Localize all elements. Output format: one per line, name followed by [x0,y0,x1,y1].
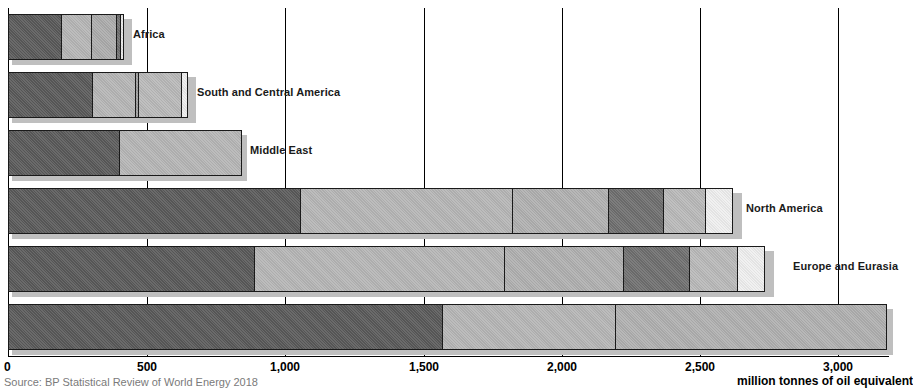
stacked-bar [8,72,188,118]
bar-row: Europe and Eurasia [0,246,889,292]
bar-segment-hydro [689,246,738,292]
bar-category-label: Middle East [250,144,312,156]
bar-segment-nuclear [623,246,690,292]
bar-segment-coal [504,246,624,292]
bar-segment-renewables [737,246,765,292]
x-tick-label: 0 [4,360,11,374]
bar-segment-nuclear [608,188,664,234]
plot-area: AfricaSouth and Central AmericaMiddle Ea… [0,0,889,356]
stacked-bar [8,14,124,60]
bar-row [0,304,889,350]
x-axis-line [8,356,889,357]
bar-row: Africa [0,14,889,60]
bar-segment-natural-gas [300,188,513,234]
bar-segment-natural-gas [119,130,242,176]
bar-segment-coal [615,304,887,350]
bar-segment-natural-gas [92,72,136,118]
bar-segment-hydro [663,188,706,234]
bar-segment-oil [8,188,301,234]
source-note: Source: BP Statistical Review of World E… [4,376,258,388]
x-axis-title: million tonnes of oil equivalent [737,374,913,388]
bar-segment-natural-gas [442,304,616,350]
bar-category-label: North America [746,202,823,214]
bar-category-label: Europe and Eurasia [793,260,898,272]
stacked-bar [8,188,733,234]
bar-segment-oil [8,130,120,176]
stacked-bar [8,246,765,292]
x-tick-label: 2,500 [685,360,715,374]
bar-category-label: South and Central America [197,86,340,98]
bar-category-label: Africa [133,28,165,40]
x-tick-label: 3,000 [823,360,853,374]
bar-segment-coal [512,188,609,234]
bar-segment-renewables [120,14,124,60]
bar-segment-oil [8,14,62,60]
x-tick-label: 500 [137,360,157,374]
bar-segment-oil [8,304,443,350]
x-tick-label: 2,000 [547,360,577,374]
bar-segment-renewables [181,72,188,118]
bar-segment-nuclear [138,72,182,118]
x-tick-label: 1,000 [270,360,300,374]
bar-row: Middle East [0,130,889,176]
bar-row: North America [0,188,889,234]
stacked-bar [8,130,242,176]
bar-segment-coal [91,14,117,60]
bar-row: South and Central America [0,72,889,118]
bar-segment-natural-gas [254,246,505,292]
x-tick-label: 1,500 [409,360,439,374]
bar-segment-natural-gas [61,14,92,60]
bar-segment-oil [8,72,93,118]
stacked-bar [8,304,887,350]
bar-segment-oil [8,246,255,292]
bar-segment-renewables [705,188,733,234]
